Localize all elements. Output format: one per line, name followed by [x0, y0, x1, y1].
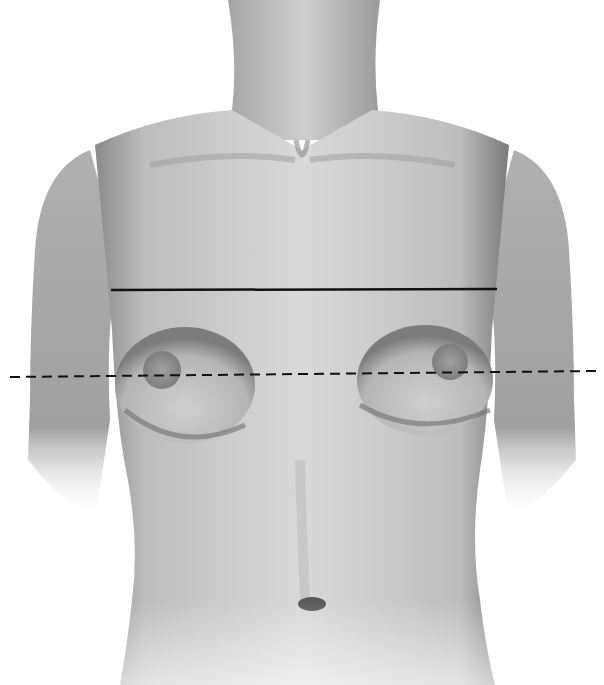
- torso-illustration: [0, 0, 604, 685]
- upper-chest-line: [111, 289, 497, 290]
- left-areola: [143, 351, 181, 389]
- right-areola: [432, 344, 468, 380]
- left-breast: [115, 327, 255, 443]
